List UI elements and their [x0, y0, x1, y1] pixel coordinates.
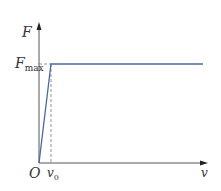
x-axis-arrow-icon [200, 161, 208, 166]
y-axis-arrow-icon [37, 22, 42, 30]
v0-label: v0 [47, 166, 59, 182]
origin-label: O [29, 165, 41, 181]
force-velocity-curve [39, 64, 203, 163]
x-axis-label: v [201, 166, 208, 180]
chart-canvas: F Fmax O v0 v [0, 0, 221, 191]
y-axis-label: F [21, 24, 33, 40]
